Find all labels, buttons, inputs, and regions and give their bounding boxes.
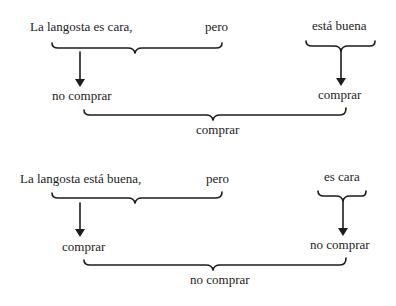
brace-left-bottom [52, 192, 222, 203]
brace-bottom-bottom [84, 258, 346, 270]
premise-left-top: La langosta es cara, [30, 20, 133, 34]
premise-left-bottom: La langosta está buena, [20, 172, 141, 186]
conclusion-right-bottom: no comprar [310, 238, 370, 252]
premise-right-top: está buena [312, 19, 367, 33]
final-conclusion-top: comprar [196, 123, 239, 137]
connector-bottom: pero [206, 172, 229, 186]
arrow-right-bottom-head [338, 228, 348, 236]
conclusion-left-bottom: comprar [62, 240, 105, 254]
diagram-connectors [0, 0, 396, 306]
conclusion-right-top: comprar [318, 88, 361, 102]
brace-right-top [306, 41, 375, 51]
premise-right-bottom: es cara [324, 170, 360, 184]
connector-top: pero [205, 20, 228, 34]
brace-left-top [52, 43, 222, 53]
brace-right-bottom [318, 191, 366, 201]
arrow-left-bottom-head [75, 229, 85, 237]
arrow-left-top-head [75, 79, 85, 87]
arrow-right-top-head [336, 78, 346, 86]
brace-bottom-top [84, 108, 346, 120]
final-conclusion-bottom: no comprar [190, 273, 250, 287]
conclusion-left-top: no comprar [52, 89, 112, 103]
